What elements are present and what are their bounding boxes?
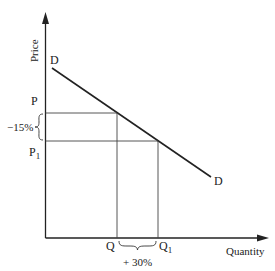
- demand-curve: [52, 68, 211, 177]
- demand-diagram: Price Quantity D D P P1 −15% Q Q1 + 30%: [0, 0, 275, 271]
- price-change-brace-icon: [35, 114, 43, 140]
- demand-curve-end-label: D: [214, 174, 223, 188]
- price-change-label: −15%: [7, 121, 33, 133]
- x-axis-label: Quantity: [226, 245, 265, 257]
- y-axis: [42, 12, 49, 238]
- y-axis-label: Price: [28, 39, 40, 62]
- x-axis-arrow-icon: [257, 235, 269, 242]
- x-axis: [46, 235, 270, 242]
- quantity-change-label: + 30%: [123, 256, 152, 268]
- demand-curve-start-label: D: [50, 53, 59, 67]
- quantity-q-label: Q: [106, 239, 115, 253]
- y-axis-arrow-icon: [42, 12, 49, 24]
- quantity-change-brace-icon: [119, 241, 156, 250]
- price-p1-label: P1: [29, 145, 40, 161]
- quantity-q1-label: Q1: [159, 239, 172, 255]
- price-p-label: P: [31, 94, 38, 108]
